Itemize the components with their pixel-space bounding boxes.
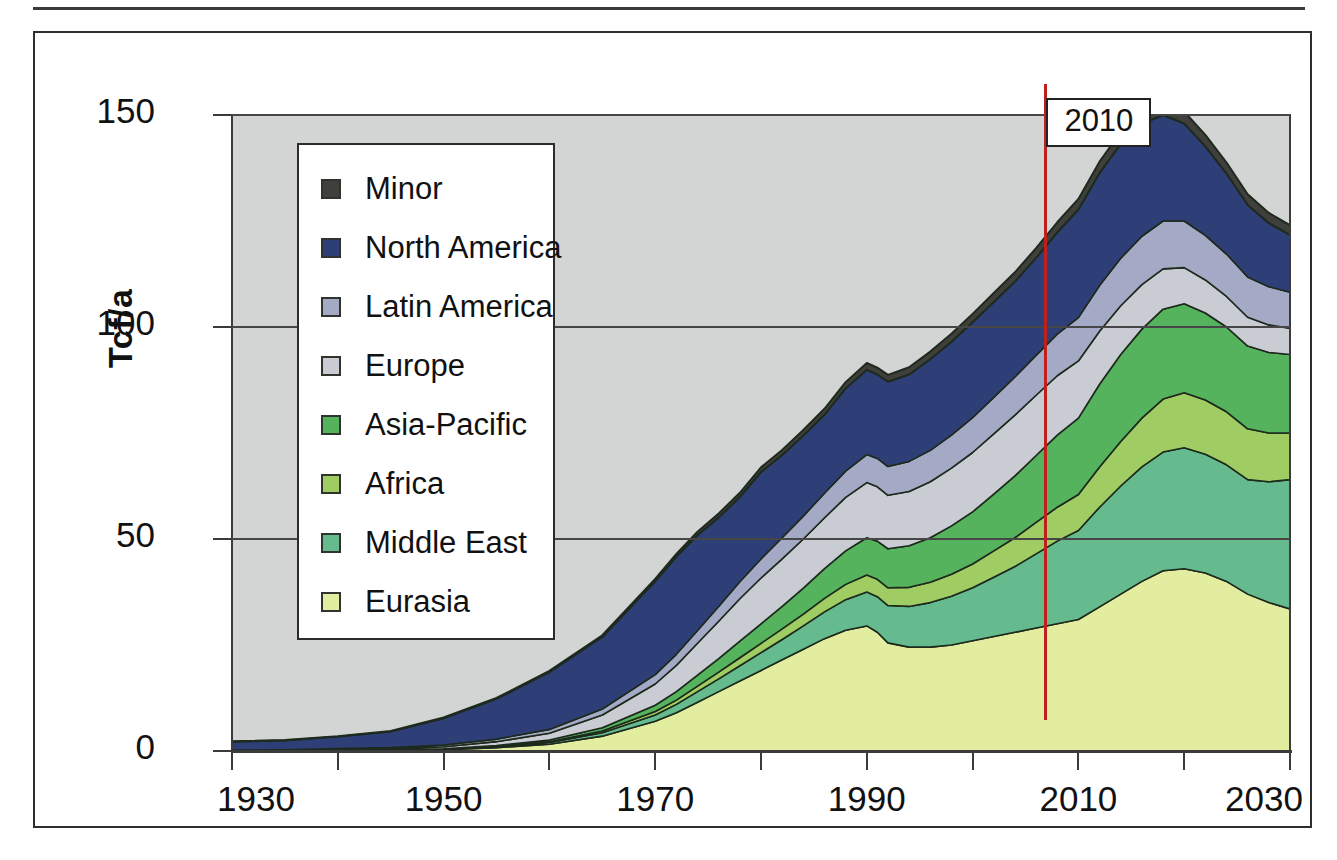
x-tick-2000 — [972, 753, 974, 770]
y-tick-0 — [213, 750, 231, 752]
legend-item-label: Latin America — [365, 289, 553, 325]
x-tick-label-1990: 1990 — [828, 779, 906, 819]
x-tick-2010 — [1077, 753, 1079, 770]
x-tick-label-2030: 2030 — [1225, 779, 1303, 819]
y-tick-100 — [213, 326, 231, 328]
x-tick-1970 — [654, 753, 656, 770]
legend-item-label: Europe — [365, 348, 465, 384]
legend-swatch-icon — [321, 179, 341, 199]
legend-swatch-icon — [321, 533, 341, 553]
legend-item-latin-america[interactable]: Latin America — [299, 277, 553, 336]
legend-swatch-icon — [321, 238, 341, 258]
legend-swatch-icon — [321, 356, 341, 376]
legend-item-label: Africa — [365, 466, 444, 502]
x-tick-1990 — [866, 753, 868, 770]
y-tick-label-50: 50 — [116, 515, 155, 555]
legend-box: MinorNorth AmericaLatin AmericaEuropeAsi… — [297, 143, 555, 640]
year-marker-line — [1044, 84, 1047, 720]
x-tick-2030 — [1289, 753, 1291, 770]
legend-item-label: Asia-Pacific — [365, 407, 527, 443]
x-tick-label-1930: 1930 — [217, 779, 295, 819]
legend-swatch-icon — [321, 297, 341, 317]
figure-root: 050100150 193019501970199020102030 Tcf/a… — [0, 0, 1337, 860]
legend-item-minor[interactable]: Minor — [299, 159, 553, 218]
plot-right-axis — [1289, 114, 1291, 752]
x-tick-label-2010: 2010 — [1039, 779, 1117, 819]
legend-item-label: Middle East — [365, 525, 527, 561]
y-tick-150 — [213, 114, 231, 116]
legend-item-europe[interactable]: Europe — [299, 336, 553, 395]
x-tick-1930 — [231, 753, 233, 770]
legend-item-africa[interactable]: Africa — [299, 454, 553, 513]
x-tick-label-1950: 1950 — [405, 779, 483, 819]
y-tick-label-0: 0 — [136, 727, 155, 767]
legend-item-eurasia[interactable]: Eurasia — [299, 572, 553, 631]
legend-item-label: Eurasia — [365, 584, 470, 620]
legend-item-label: North America — [365, 230, 561, 266]
legend-swatch-icon — [321, 415, 341, 435]
top-rule-divider — [33, 7, 1305, 10]
figure-frame: 050100150 193019501970199020102030 Tcf/a… — [33, 31, 1312, 828]
plot-left-axis — [231, 114, 233, 752]
x-tick-1950 — [443, 753, 445, 770]
legend-item-middle-east[interactable]: Middle East — [299, 513, 553, 572]
legend-item-label: Minor — [365, 171, 443, 207]
x-tick-2020 — [1183, 753, 1185, 770]
x-tick-1940 — [337, 753, 339, 770]
y-axis-title: Tcf/a — [101, 289, 140, 368]
legend-swatch-icon — [321, 474, 341, 494]
legend-swatch-icon — [321, 592, 341, 612]
legend-item-asia-pacific[interactable]: Asia-Pacific — [299, 395, 553, 454]
x-tick-1960 — [548, 753, 550, 770]
year-marker-label: 2010 — [1046, 98, 1151, 147]
y-tick-50 — [213, 538, 231, 540]
y-tick-label-150: 150 — [97, 91, 155, 131]
x-tick-label-1970: 1970 — [616, 779, 694, 819]
x-tick-1980 — [760, 753, 762, 770]
legend-item-north-america[interactable]: North America — [299, 218, 553, 277]
